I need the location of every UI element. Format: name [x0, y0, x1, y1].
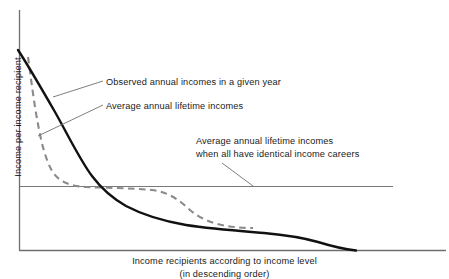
- annotation-average-lifetime-incomes: Average annual lifetime incomes: [106, 100, 243, 113]
- annotation-identical-careers: Average annual lifetime incomes when all…: [196, 135, 360, 161]
- leader-line-observed: [53, 81, 103, 97]
- y-axis-title: Income per income recipient: [13, 37, 23, 197]
- leader-line-lifetime: [38, 105, 103, 136]
- leader-line-identical-careers: [222, 163, 253, 186]
- x-axis-title-line2: (in descending order): [0, 268, 449, 279]
- chart-figure: Observed annual incomes in a given year …: [0, 0, 449, 279]
- annotation-identical-careers-line1: Average annual lifetime incomes: [196, 135, 360, 148]
- x-axis-title-line1: Income recipients according to income le…: [0, 255, 449, 268]
- annotation-identical-careers-line2: when all have identical income careers: [196, 148, 360, 161]
- x-axis-title: Income recipients according to income le…: [0, 255, 449, 279]
- annotation-observed-incomes: Observed annual incomes in a given year: [106, 76, 281, 89]
